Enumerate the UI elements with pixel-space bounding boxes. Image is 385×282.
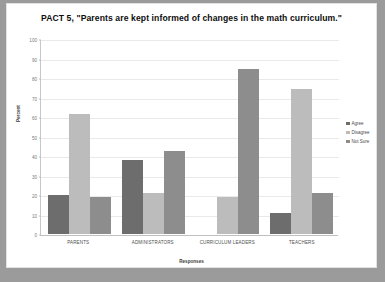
y-axis-tick-label: 80 — [32, 77, 37, 82]
chart-legend: AgreeDisagreeNot Sure — [346, 121, 370, 144]
y-axis-tick-label: 40 — [32, 155, 37, 160]
bar-not-sure[interactable] — [164, 151, 185, 234]
legend-swatch-icon — [346, 140, 350, 144]
y-axis-tick-label: 30 — [32, 174, 37, 179]
y-axis-tick-mark — [39, 196, 41, 197]
y-axis-tick-mark — [39, 98, 41, 99]
bar-not-sure[interactable] — [312, 193, 333, 234]
y-axis-tick-label: 0 — [34, 233, 37, 238]
legend-label: Disagree — [352, 130, 370, 135]
bar-disagree[interactable] — [143, 193, 164, 234]
bar-group — [264, 40, 338, 234]
y-axis-tick-mark — [39, 215, 41, 216]
bar-agree[interactable] — [270, 213, 291, 234]
x-axis-tick-label: TEACHERS — [265, 240, 340, 245]
legend-swatch-icon — [346, 122, 350, 126]
chart-card: PACT 5, "Parents are kept informed of ch… — [6, 3, 377, 268]
x-axis-tick-label: ADMINISTRATORS — [116, 240, 191, 245]
plot-wrap: 0102030405060708090100 — [40, 40, 338, 236]
bar-disagree[interactable] — [69, 114, 90, 234]
legend-label: Agree — [352, 121, 364, 126]
legend-item[interactable]: Disagree — [346, 130, 370, 135]
y-axis-tick-mark — [39, 40, 41, 41]
y-axis-tick-mark — [39, 79, 41, 80]
legend-label: Not Sure — [352, 139, 370, 144]
bar-group — [190, 40, 264, 234]
bar-agree[interactable] — [122, 160, 143, 234]
y-axis-title: Percent — [16, 105, 21, 122]
y-axis-tick-label: 70 — [32, 96, 37, 101]
legend-item[interactable]: Not Sure — [346, 139, 370, 144]
legend-swatch-icon — [346, 131, 350, 135]
y-axis-tick-label: 10 — [32, 213, 37, 218]
bar-agree[interactable] — [48, 195, 69, 234]
x-axis-title: Responses — [7, 259, 376, 264]
y-axis-tick-mark — [39, 118, 41, 119]
y-axis-tick-label: 20 — [32, 194, 37, 199]
x-axis-tick-label: CURRICULUM LEADERS — [190, 240, 265, 245]
bar-disagree[interactable] — [291, 89, 312, 235]
bar-group — [42, 40, 116, 234]
y-axis-tick-label: 60 — [32, 116, 37, 121]
bar-not-sure[interactable] — [238, 69, 259, 234]
y-axis-tick-label: 100 — [29, 38, 37, 43]
bar-not-sure[interactable] — [90, 197, 111, 234]
bar-groups — [42, 40, 338, 234]
y-axis-tick-mark — [39, 176, 41, 177]
y-axis-tick-label: 90 — [32, 57, 37, 62]
y-axis-tick-mark — [39, 235, 41, 236]
y-axis-tick-mark — [39, 59, 41, 60]
x-axis-tick-labels: PARENTSADMINISTRATORSCURRICULUM LEADERST… — [41, 240, 339, 245]
y-axis-tick-mark — [39, 157, 41, 158]
x-axis-tick-label: PARENTS — [41, 240, 116, 245]
bar-group — [116, 40, 190, 234]
y-axis-tick-mark — [39, 137, 41, 138]
chart-title: PACT 5, "Parents are kept informed of ch… — [7, 13, 376, 24]
plot-area: 0102030405060708090100 — [40, 40, 338, 236]
legend-item[interactable]: Agree — [346, 121, 370, 126]
y-axis-tick-label: 50 — [32, 135, 37, 140]
bar-disagree[interactable] — [217, 197, 238, 234]
